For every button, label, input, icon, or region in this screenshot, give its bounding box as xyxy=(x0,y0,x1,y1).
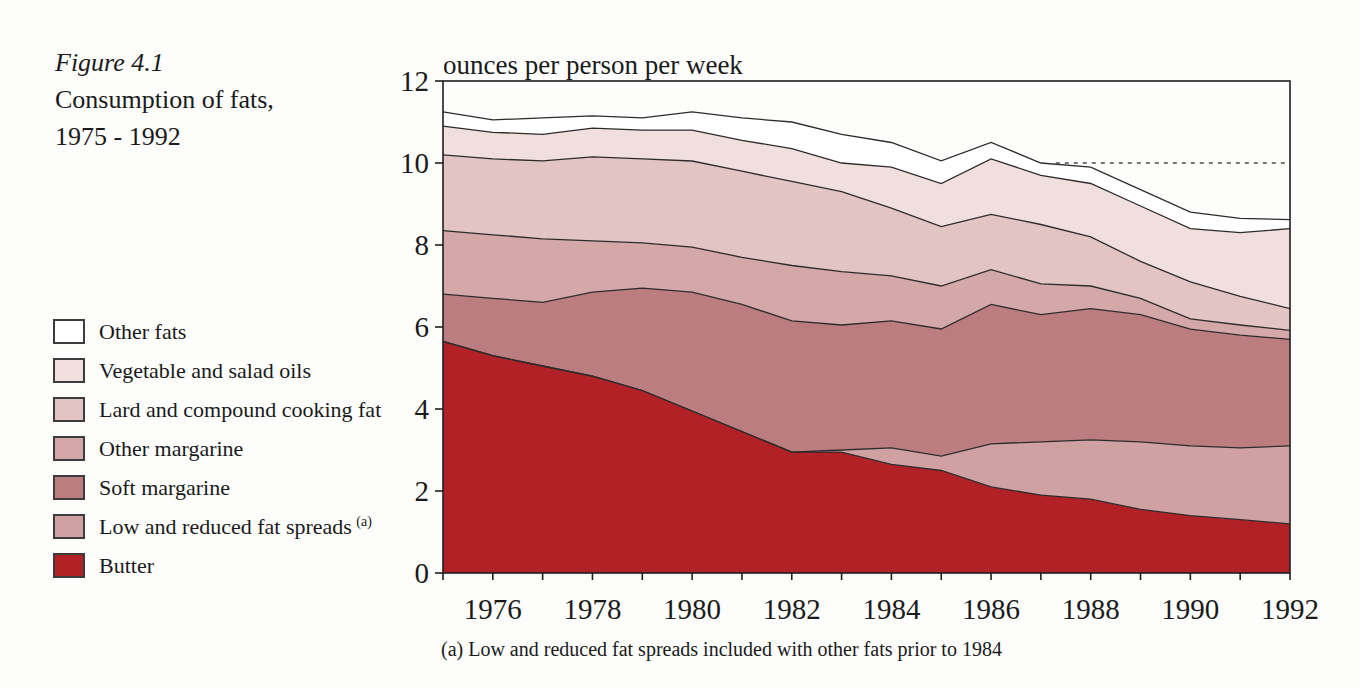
x-tick-label-1980: 1980 xyxy=(663,593,721,625)
y-tick-label-6: 6 xyxy=(415,311,430,343)
y-tick-label-8: 8 xyxy=(415,229,430,261)
y-tick-label-12: 12 xyxy=(400,65,429,97)
x-tick-label-1988: 1988 xyxy=(1062,593,1120,625)
y-axis-title: ounces per person per week xyxy=(443,50,743,80)
y-tick-label-10: 10 xyxy=(400,147,429,179)
footnote: (a) Low and reduced fat spreads included… xyxy=(441,638,1002,661)
consumption-of-fats-chart: 1976197819801982198419861988199019920246… xyxy=(0,0,1360,688)
x-tick-label-1986: 1986 xyxy=(962,593,1020,625)
x-tick-label-1982: 1982 xyxy=(763,593,821,625)
chart-plot-area: 1976197819801982198419861988199019920246… xyxy=(400,65,1319,625)
y-tick-label-0: 0 xyxy=(415,557,430,589)
x-tick-label-1978: 1978 xyxy=(563,593,621,625)
x-tick-label-1990: 1990 xyxy=(1161,593,1219,625)
y-tick-label-4: 4 xyxy=(415,393,430,425)
figure-page: Figure 4.1 Consumption of fats, 1975 - 1… xyxy=(0,0,1360,688)
x-tick-label-1992: 1992 xyxy=(1261,593,1319,625)
y-tick-label-2: 2 xyxy=(415,475,430,507)
x-tick-label-1984: 1984 xyxy=(862,593,921,625)
x-tick-label-1976: 1976 xyxy=(464,593,522,625)
